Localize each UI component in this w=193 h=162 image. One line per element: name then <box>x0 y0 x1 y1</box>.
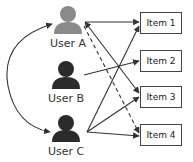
user-a-icon <box>54 6 82 34</box>
edge-userb-item2 <box>84 61 139 75</box>
item-3-box: Item 3 <box>140 86 182 108</box>
user-item-diagram: User A User B User C Item 1 Item 2 Item … <box>0 0 193 162</box>
user-b-icon <box>52 61 80 89</box>
item-1-box: Item 1 <box>140 12 182 34</box>
edge-usera-item3 <box>85 22 139 93</box>
edge-userc-item4 <box>87 132 139 136</box>
user-b-label: User B <box>36 93 96 105</box>
item-4-box: Item 4 <box>140 124 182 146</box>
user-a-label: User A <box>38 38 98 50</box>
item-2-box: Item 2 <box>140 50 182 72</box>
user-c-icon <box>52 115 80 142</box>
user-c-label: User C <box>36 146 96 158</box>
